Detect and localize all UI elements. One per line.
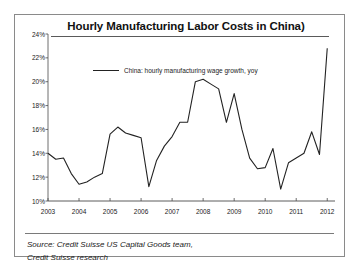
chart-figure: Hourly Manufacturing Labor Costs in Chin… (14, 14, 345, 257)
x-axis-tick-label: 2005 (93, 208, 127, 215)
x-axis-tick-label: 2007 (155, 208, 189, 215)
x-axis-tick-label: 2010 (248, 208, 282, 215)
x-axis-tick-label: 2008 (186, 208, 220, 215)
legend-line-swatch (93, 70, 119, 71)
chart-legend: China: hourly manufacturing wage growth,… (93, 67, 258, 74)
x-axis-tick-label: 2011 (279, 208, 313, 215)
x-axis-labels: 2003200420052006200720082009201020112012 (15, 15, 346, 258)
legend-label-china-wage-growth: China: hourly manufacturing wage growth,… (124, 67, 258, 74)
x-axis-tick-label: 2004 (62, 208, 96, 215)
x-axis-tick-label: 2009 (217, 208, 251, 215)
source-line-1: Source: Credit Suisse US Capital Goods t… (27, 238, 327, 251)
x-axis-tick-label: 2012 (310, 208, 344, 215)
source-line-2: Credit Suisse research (27, 251, 327, 264)
x-axis-tick-label: 2003 (31, 208, 65, 215)
source-note: Source: Credit Suisse US Capital Goods t… (27, 238, 327, 264)
x-axis-tick-label: 2006 (124, 208, 158, 215)
source-divider (25, 233, 334, 234)
